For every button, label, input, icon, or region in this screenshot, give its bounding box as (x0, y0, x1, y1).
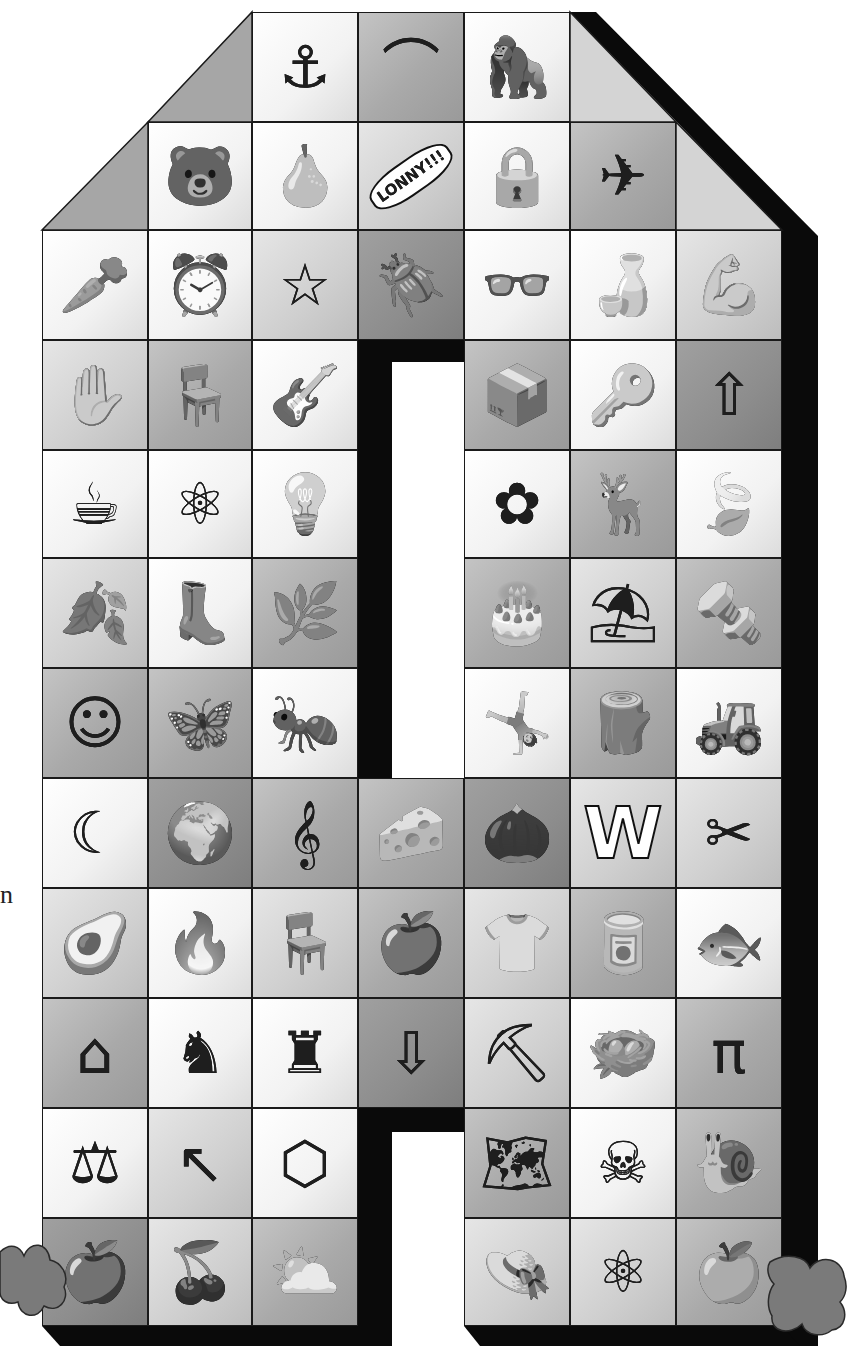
alarm-clock-icon: ⏰ (164, 256, 236, 314)
roof-left-lower (42, 122, 148, 230)
roof-right-lower (676, 122, 782, 230)
tile-beetroot: 🥕 (42, 230, 148, 340)
beetle-icon: 🪲 (375, 256, 447, 314)
tile-treble-clef: 𝄞 (252, 778, 358, 888)
screw-icon: 🔩 (693, 584, 765, 642)
tile-brick-arch: ⌒ (358, 12, 464, 122)
tile-atom: ⚛ (570, 1218, 676, 1326)
glove-icon: ✋ (59, 366, 131, 424)
armchair-icon: 🪑 (164, 366, 236, 424)
tile-glove: ✋ (42, 340, 148, 450)
tile-house: ⌂ (42, 998, 148, 1108)
boot-icon: 👢 (164, 584, 236, 642)
tile-bear: 🐻 (148, 122, 252, 230)
anchor-icon: ⚓ (279, 38, 331, 96)
tile-awning: ⛱ (570, 558, 676, 668)
treble-clef-icon: 𝄞 (288, 804, 322, 862)
tile-arrow-outline: ⇧ (676, 340, 782, 450)
atom-icon: ⚛ (174, 475, 226, 533)
spade-icon: ⛏ (480, 1024, 554, 1082)
guitar-icon: 🎸 (269, 366, 341, 424)
bottle-icon: 🍶 (587, 256, 659, 314)
pincers-icon: ✂ (705, 804, 754, 862)
crescent-moon-icon: ☾ (69, 804, 121, 862)
tile-anchor: ⚓ (252, 12, 358, 122)
fish-icon: 🐟 (693, 914, 765, 972)
holly-leaf-icon: 🍃 (693, 475, 765, 533)
tile-crescent-moon: ☾ (42, 778, 148, 888)
left-foot (0, 1232, 70, 1322)
tile-scales: ⚖ (42, 1108, 148, 1218)
tile-apple: 🍎 (358, 888, 464, 998)
tile-padlock: 🔒 (464, 122, 570, 230)
lamp-icon: 💡 (269, 475, 341, 533)
roof-right-upper (570, 12, 676, 122)
tile-smiley-face: ☺ (42, 668, 148, 778)
chair-icon: 🪑 (269, 914, 341, 972)
tile-star: ☆ (252, 230, 358, 340)
arm-flexing-icon: 💪 (693, 256, 765, 314)
pear-icon: 🍐 (269, 147, 341, 205)
tile-ant: 🐜 (252, 668, 358, 778)
hairbrush-icon: LONNY!!! (362, 135, 459, 218)
box-icon: 📦 (481, 366, 553, 424)
tile-castle-tower: ♜ (252, 998, 358, 1108)
tile-kettle: ☕ (42, 450, 148, 558)
knight-icon: ♞ (174, 1024, 226, 1082)
tile-cherries: 🍒 (148, 1218, 252, 1326)
apple-icon: 🍏 (693, 1243, 765, 1301)
tile-butterfly: 🦋 (148, 668, 252, 778)
tile-australia-map: 🗺 (464, 1108, 570, 1218)
tile-table: π (676, 998, 782, 1108)
snail-icon: 🐌 (693, 1134, 765, 1192)
house-icon: ⌂ (77, 1024, 114, 1082)
tile-acorn: 🌰 (464, 778, 570, 888)
tile-alarm-clock: ⏰ (148, 230, 252, 340)
tile-hat: 👒 (464, 1218, 570, 1326)
tile-beetle: 🪲 (358, 230, 464, 340)
tile-africa-map: 🌍 (148, 778, 252, 888)
tractor-icon: 🚜 (693, 694, 765, 752)
tree-stump-icon: 🪵 (587, 694, 659, 752)
leg-gap-hole (392, 1132, 464, 1346)
acorn-icon: 🌰 (481, 804, 553, 862)
tile-spectacles: 👓 (464, 230, 570, 340)
tile-fish: 🐟 (676, 888, 782, 998)
tile-bottle: 🍶 (570, 230, 676, 340)
tile-tree-stump: 🪵 (570, 668, 676, 778)
t-shirt-icon: 👕 (481, 914, 553, 972)
asparagus-icon: 🌿 (269, 584, 341, 642)
cake-icon: 🎂 (481, 584, 553, 642)
tile-acrobat: 🤸 (464, 668, 570, 778)
tile-spade: ⛏ (464, 998, 570, 1108)
atom-icon: ⚛ (597, 1243, 649, 1301)
star-icon: ☆ (279, 256, 331, 314)
oak-leaf-icon: 🍂 (59, 584, 131, 642)
flower-icon: ✿ (493, 475, 542, 533)
key-icon: 🔑 (587, 366, 659, 424)
tile-letter-w: W (570, 778, 676, 888)
tile-cake: 🎂 (464, 558, 570, 668)
bear-icon: 🐻 (164, 147, 236, 205)
tile-oak-leaf: 🍂 (42, 558, 148, 668)
tile-cheese: 🧀 (358, 778, 464, 888)
scales-icon: ⚖ (69, 1134, 121, 1192)
roof-left-upper (148, 12, 252, 122)
letter-a-illustration: n ⚓⌒🦍🐻🍐LONNY!!!🔒✈🥕⏰☆🪲👓🍶💪✋🪑🎸📦🔑⇧☕⚛💡✿🦌🍃🍂👢🌿🎂… (0, 0, 848, 1346)
tile-t-shirt: 👕 (464, 888, 570, 998)
tile-tractor: 🚜 (676, 668, 782, 778)
cherries-icon: 🍒 (164, 1243, 236, 1301)
hat-icon: 👒 (481, 1243, 553, 1301)
avocado-icon: 🥑 (59, 914, 131, 972)
tile-paint-pot: 🥫 (570, 888, 676, 998)
kettle-icon: ☕ (69, 475, 121, 533)
arrow-icon: ↖ (176, 1134, 225, 1192)
left-leg-bottom-shadow (42, 1326, 392, 1346)
africa-map-icon: 🌍 (164, 804, 236, 862)
cloud-sun-icon: ⛅ (269, 1243, 341, 1301)
tile-cloud-sun: ⛅ (252, 1218, 358, 1326)
tile-arm-flexing: 💪 (676, 230, 782, 340)
tile-crossbones: ☠ (570, 1108, 676, 1218)
tile-flower: ✿ (464, 450, 570, 558)
gorilla-icon: 🦍 (481, 38, 553, 96)
